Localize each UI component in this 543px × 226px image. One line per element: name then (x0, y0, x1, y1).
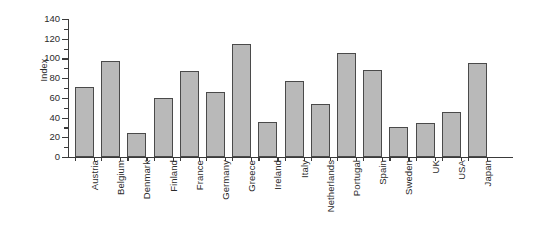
x-tick (389, 157, 390, 161)
y-tick-major (62, 118, 68, 119)
x-axis-category-label-text: Ireland (272, 160, 283, 190)
bar (232, 44, 251, 157)
y-tick-label: 0 (34, 153, 60, 161)
bar (206, 92, 225, 157)
bar-chart-figure: Index 020406080100120140 AustriaBelgiumD… (0, 0, 543, 226)
x-axis-category-label-text: Austria (89, 160, 100, 190)
x-axis-category-label-text: Japan (482, 160, 493, 186)
y-tick-label: 20 (34, 133, 60, 141)
x-axis-category-label: Greece (246, 160, 257, 192)
bar (468, 63, 487, 157)
x-axis-category-label: Austria (89, 160, 100, 190)
x-axis-category-label: USA (456, 160, 467, 180)
x-axis-category-label-text: Netherlands (325, 160, 336, 212)
bar (442, 112, 461, 157)
x-axis-category-label: Spain (377, 160, 388, 185)
x-axis-category-label-text: Finland (168, 160, 179, 192)
y-tick-minor (64, 147, 68, 148)
x-tick (180, 157, 181, 161)
x-tick (442, 157, 443, 161)
y-axis-tick-labels: 020406080100120140 (34, 0, 60, 226)
bar (180, 71, 199, 157)
bar (389, 127, 408, 157)
x-tick (468, 157, 469, 161)
plot-area (69, 19, 513, 157)
x-axis-category-label: Denmark (141, 160, 152, 199)
x-axis-category-label-text: Greece (246, 160, 257, 192)
bar (285, 81, 304, 157)
bar (416, 123, 435, 158)
y-tick-major (62, 98, 68, 99)
x-axis-category-label: France (194, 160, 205, 190)
x-axis-category-label: Portugal (351, 160, 362, 196)
x-axis-category-label: Finland (168, 160, 179, 192)
x-axis-category-label-text: Italy (299, 160, 310, 178)
y-tick-major (62, 39, 68, 40)
x-axis-category-label: Belgium (115, 160, 126, 195)
x-axis-category-label-text: UK (430, 160, 441, 173)
x-axis-category-label: Ireland (272, 160, 283, 190)
x-axis-category-label-text: Sweden (403, 160, 414, 195)
x-tick (127, 157, 128, 161)
x-axis-category-label-text: France (194, 160, 205, 190)
y-tick-minor (64, 108, 68, 109)
bar (154, 98, 173, 157)
y-tick-minor (64, 29, 68, 30)
y-tick-label: 140 (34, 15, 60, 23)
y-tick-major (62, 137, 68, 138)
x-tick (363, 157, 364, 161)
x-axis-category-label-text: Spain (377, 160, 388, 185)
y-tick-label: 120 (34, 35, 60, 43)
x-axis-category-label: Germany (220, 160, 231, 200)
x-tick (311, 157, 312, 161)
x-tick (75, 157, 76, 161)
y-tick-minor (64, 127, 68, 128)
x-tick (154, 157, 155, 161)
x-tick (416, 157, 417, 161)
bar (101, 61, 120, 157)
y-tick-label: 80 (34, 74, 60, 82)
x-tick (258, 157, 259, 161)
bar (75, 87, 94, 157)
bar (311, 104, 330, 157)
x-tick (206, 157, 207, 161)
y-tick-label: 40 (34, 114, 60, 122)
x-axis-category-label-text: Denmark (141, 160, 152, 199)
x-axis-category-label-text: Belgium (115, 160, 126, 195)
x-axis-category-label-text: Germany (220, 160, 231, 200)
y-tick-minor (64, 88, 68, 89)
y-tick-major (62, 58, 68, 59)
y-tick-label: 100 (34, 54, 60, 62)
y-tick-label: 60 (34, 94, 60, 102)
x-axis-category-label: Netherlands (325, 160, 336, 212)
x-axis-category-label: Italy (299, 160, 310, 178)
x-axis-category-label: UK (430, 160, 441, 173)
y-tick-major (62, 19, 68, 20)
x-axis-category-label: Japan (482, 160, 493, 186)
x-axis-category-label-text: USA (456, 160, 467, 180)
x-axis-category-label: Sweden (403, 160, 414, 195)
y-tick-minor (64, 68, 68, 69)
bar (127, 133, 146, 157)
bar (258, 122, 277, 157)
y-tick-minor (64, 49, 68, 50)
x-tick (101, 157, 102, 161)
bar (363, 70, 382, 157)
y-tick-major (62, 78, 68, 79)
bar (337, 53, 356, 157)
x-axis-category-label-text: Portugal (351, 160, 362, 196)
x-tick (337, 157, 338, 161)
x-tick (232, 157, 233, 161)
x-tick (285, 157, 286, 161)
